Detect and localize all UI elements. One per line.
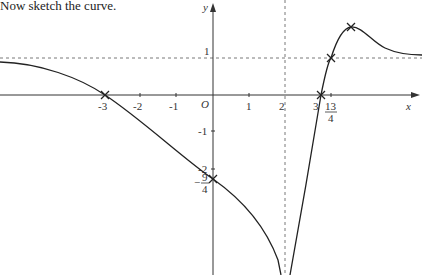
x-tick-label: 1 bbox=[246, 100, 252, 112]
x-tick-label: 2 bbox=[279, 100, 285, 112]
y-tick-label: 1 bbox=[204, 45, 210, 57]
origin-label: O bbox=[201, 98, 209, 110]
x-axis-label: x bbox=[405, 100, 411, 112]
point-marker-13-4 bbox=[327, 54, 335, 62]
y-tick-label: -1 bbox=[198, 125, 207, 137]
y-axis-label: y bbox=[202, 1, 208, 13]
curve-sketch-chart: y x O -3 -2 -1 1 2 3 13 4 1 -1 -2 − 9 4 bbox=[0, 0, 422, 275]
x-tick-label: -3 bbox=[98, 100, 108, 112]
x-tick-label: -2 bbox=[133, 100, 142, 112]
x-tick-label-13-4-num: 13 bbox=[325, 100, 337, 112]
curve-right-branch bbox=[290, 27, 422, 275]
y-tick-label-9-4-den: 4 bbox=[202, 183, 208, 195]
x-tick-label: -1 bbox=[169, 100, 178, 112]
y-tick-label-minus: − bbox=[194, 176, 200, 188]
y-axis-arrow-icon bbox=[210, 3, 216, 12]
x-tick-label-13-4-den: 4 bbox=[328, 112, 334, 124]
x-axis-arrow-icon bbox=[411, 92, 420, 98]
